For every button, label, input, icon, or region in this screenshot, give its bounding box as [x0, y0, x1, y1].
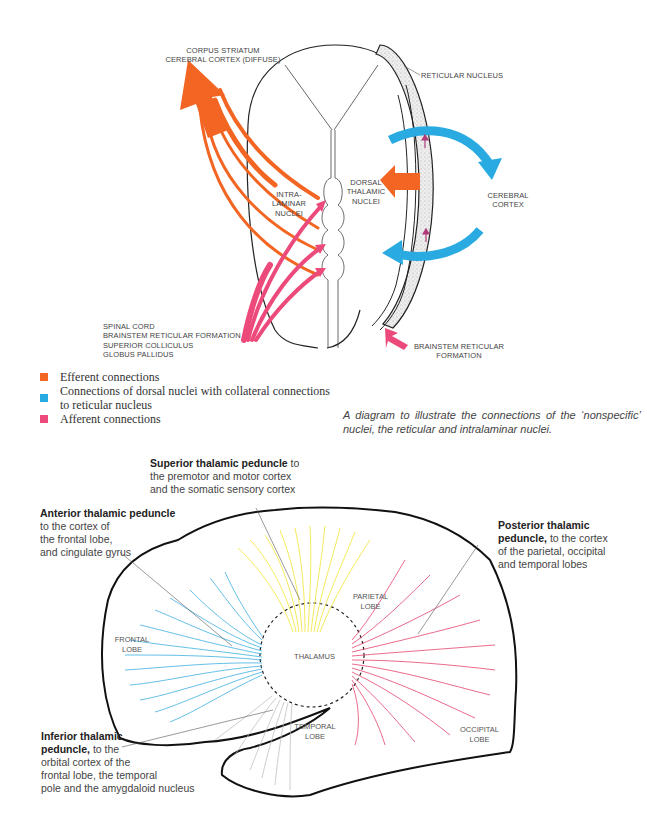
note-line: the premotor and motor cortex — [150, 470, 299, 483]
label-corpus-striatum: CORPUS STRIATUM — [158, 46, 288, 55]
note-line: Inferior thalamic — [41, 730, 195, 743]
legend-item-dorsal: Connections of dorsal nuclei with collat… — [40, 384, 330, 412]
note-line: and temporal lobes — [498, 558, 608, 571]
label-line: FORMATION — [409, 351, 509, 360]
blue-arrowhead-right — [478, 158, 502, 180]
legend-swatch-pink — [40, 415, 48, 423]
label-line: LAMINAR — [265, 199, 313, 208]
reticular-nucleus-label: RETICULAR NUCLEUS — [421, 71, 503, 80]
label-line: NUCLEI — [265, 209, 313, 218]
inferior-peduncle-note: Inferior thalamic peduncle, to the orbit… — [41, 730, 195, 795]
note-line: Anterior thalamic peduncle — [40, 507, 175, 520]
note-title: Anterior thalamic peduncle — [40, 507, 175, 519]
superior-peduncle-note: Superior thalamic peduncle to the premot… — [150, 457, 299, 496]
label-line: LOBE — [290, 732, 340, 742]
note-line: frontal lobe, the temporal — [41, 769, 195, 782]
note-line: to the cortex of — [40, 520, 175, 533]
anterior-peduncle-note: Anterior thalamic peduncle to the cortex… — [40, 507, 175, 559]
note-title: Superior thalamic peduncle — [150, 457, 288, 469]
brainstem-reticular-formation-label: BRAINSTEM RETICULAR FORMATION — [409, 342, 509, 361]
legend-swatch-orange — [40, 373, 48, 381]
note-title: Inferior thalamic — [41, 730, 123, 742]
note-line: and the somatic sensory cortex — [150, 483, 299, 496]
note-title: Posterior thalamic — [498, 519, 590, 531]
label-line: DORSAL — [341, 178, 391, 187]
dorsal-thalamic-nuclei-label: DORSAL THALAMIC NUCLEI — [341, 178, 391, 206]
note-line: peduncle, to the cortex — [498, 532, 608, 545]
efferent-arrowhead — [180, 60, 228, 138]
cerebral-cortex-label: CEREBRAL CORTEX — [483, 191, 533, 210]
label-line: CORTEX — [483, 200, 533, 209]
parietal-lobe-label: PARIETAL LOBE — [348, 592, 393, 612]
figure-caption: A diagram to illustrate the connections … — [343, 408, 641, 436]
note-line: of the parietal, occipital — [498, 545, 608, 558]
note-line: peduncle, to the — [41, 743, 195, 756]
label-brainstem-reticular-formation: BRAINSTEM RETICULAR FORMATION — [103, 331, 241, 340]
note-title: peduncle, — [498, 532, 547, 544]
legend-item-efferent: Efferent connections — [40, 370, 330, 384]
blue-arrowhead-left — [382, 240, 403, 265]
note-text: to the cortex — [547, 532, 608, 544]
legend-swatch-blue — [40, 394, 48, 402]
label-line: INTRA- — [265, 190, 313, 199]
frontal-lobe-label: FRONTAL LOBE — [112, 635, 152, 655]
occipital-lobe-label: OCCIPITAL LOBE — [452, 725, 507, 745]
note-line: the frontal lobe, — [40, 533, 175, 546]
legend-item-afferent: Afferent connections — [40, 412, 330, 426]
label-line: OCCIPITAL — [452, 725, 507, 735]
posterior-peduncle-note: Posterior thalamic peduncle, to the cort… — [498, 519, 608, 571]
note-line: and cingulate gyrus — [40, 546, 175, 559]
label-globus-pallidus: GLOBUS PALLIDUS — [103, 350, 241, 359]
note-text: to — [288, 457, 300, 469]
label-line: PARIETAL — [348, 592, 393, 602]
efferent-target-label: CORPUS STRIATUM CEREBRAL CORTEX (DIFFUSE… — [158, 46, 288, 65]
brainstem-arrow — [385, 328, 408, 350]
note-line: Posterior thalamic — [498, 519, 608, 532]
label-line: LOBE — [112, 645, 152, 655]
legend: Efferent connections Connections of dors… — [40, 370, 330, 426]
label-cerebral-cortex-diffuse: CEREBRAL CORTEX (DIFFUSE) — [158, 55, 288, 64]
thalamus-label: THALAMUS — [287, 652, 342, 662]
note-text: to the — [90, 743, 119, 755]
label-line: FRONTAL — [112, 635, 152, 645]
inferior-peduncle-fibers — [215, 696, 292, 790]
intralaminar-nuclei-label: INTRA- LAMINAR NUCLEI — [265, 190, 313, 218]
dorsal-connection-arrows — [390, 131, 490, 257]
legend-label: Efferent connections — [60, 370, 330, 384]
temporal-lobe-label: TEMPORAL LOBE — [290, 722, 340, 742]
note-title: peduncle, — [41, 743, 90, 755]
label-line: CEREBRAL — [483, 191, 533, 200]
label-line: THALAMIC — [341, 187, 391, 196]
label-line: LOBE — [348, 602, 393, 612]
legend-label: Afferent connections — [60, 412, 330, 426]
label-superior-colliculus: SUPERIOR COLLICULUS — [103, 341, 241, 350]
afferent-sources-label: SPINAL CORD BRAINSTEM RETICULAR FORMATIO… — [103, 322, 241, 360]
note-line: pole and the amygdaloid nucleus — [41, 782, 195, 795]
label-line: LOBE — [452, 735, 507, 745]
note-line: orbital cortex of the — [41, 756, 195, 769]
label-line: TEMPORAL — [290, 722, 340, 732]
label-line: BRAINSTEM RETICULAR — [409, 342, 509, 351]
label-line: NUCLEI — [341, 197, 391, 206]
posterior-peduncle-fibers — [352, 560, 495, 745]
legend-label: Connections of dorsal nuclei with collat… — [60, 384, 330, 412]
note-line: Superior thalamic peduncle to — [150, 457, 299, 470]
label-spinal-cord: SPINAL CORD — [103, 322, 241, 331]
